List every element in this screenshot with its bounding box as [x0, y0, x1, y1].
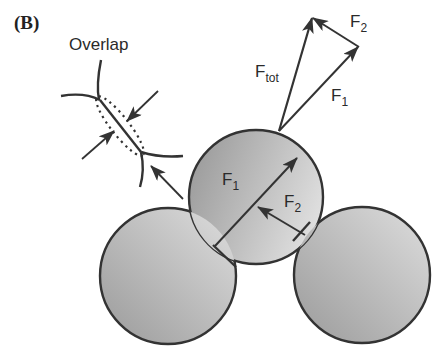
vector-ftot-label: Ftot	[255, 62, 279, 85]
compression-arrow-upper	[127, 91, 158, 121]
compression-arrow-lower	[82, 131, 114, 159]
overlap-label: Overlap	[69, 35, 129, 54]
inset-lower-arc	[140, 152, 143, 187]
overlap-inset: Overlap	[61, 35, 183, 199]
vector-f2-label: F2	[350, 12, 367, 35]
inset-upper-arc	[98, 60, 101, 100]
inset-contact-line	[100, 100, 141, 152]
panel-label: (B)	[14, 12, 39, 34]
vector-f1-label: F1	[331, 86, 348, 109]
particle-force-diagram: (B) Overlap F1 F2	[0, 0, 443, 355]
inset-left-arc	[61, 95, 100, 100]
vector-sum-diagram: Ftot F1 F2	[255, 12, 367, 131]
inset-right-arc	[141, 152, 183, 157]
pointer-arrow-to-contact	[151, 166, 183, 199]
particles	[100, 130, 430, 344]
